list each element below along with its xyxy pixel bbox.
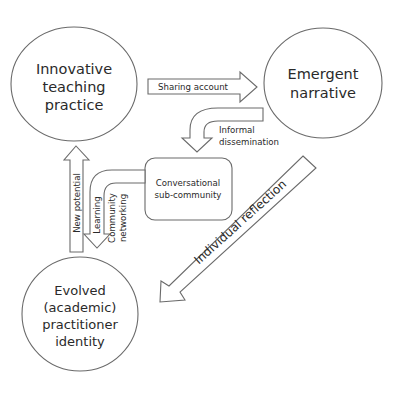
node-label-line: narrative <box>290 85 356 101</box>
node-label-line: practice <box>45 97 104 113</box>
node-label-line: Evolved <box>54 283 105 298</box>
edge-label-line: dissemination <box>219 137 279 147</box>
node-innovative-teaching-practice: Innovative teaching practice <box>11 27 137 141</box>
node-label-line: teaching <box>42 79 105 95</box>
edge-label: Sharing account <box>158 82 229 92</box>
edge-informal-dissemination-arrow: Informal dissemination <box>182 108 279 152</box>
edge-label-line: Informal <box>219 125 255 135</box>
edge-label-line: Community <box>107 193 117 243</box>
edge-label-line: networking <box>118 194 128 242</box>
edge-sharing-account-arrow: Sharing account <box>148 72 257 102</box>
edge-label: Learning <box>92 196 102 233</box>
node-label-line: sub-community <box>155 190 222 200</box>
node-label-line: identity <box>55 334 105 349</box>
node-label-line: Conversational <box>156 178 220 188</box>
node-conversational-sub-community: Conversational sub-community <box>145 158 232 220</box>
edge-label: New potential <box>72 173 82 233</box>
edge-learning-arrow: Learning Community networking <box>84 170 145 248</box>
node-label-line: Innovative <box>36 61 112 77</box>
diagram-canvas: Innovative teaching practice Emergent na… <box>0 0 399 396</box>
node-label-line: practitioner <box>42 317 118 332</box>
node-emergent-narrative: Emergent narrative <box>264 28 382 138</box>
node-label-line: (academic) <box>44 300 117 315</box>
node-evolved-practitioner-identity: Evolved (academic) practitioner identity <box>22 257 138 371</box>
node-label-line: Emergent <box>288 66 359 82</box>
